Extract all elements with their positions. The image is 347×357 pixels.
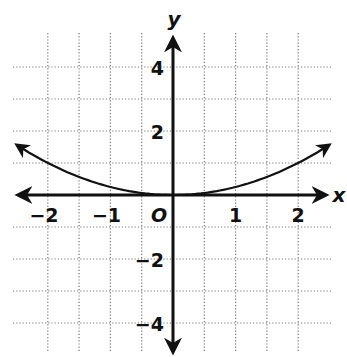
x-tick-label: −1 xyxy=(92,204,121,226)
tick-labels: −2−11242−2−4Oxy xyxy=(29,7,346,335)
x-axis-label: x xyxy=(332,183,347,207)
y-tick-label: 2 xyxy=(151,121,164,143)
y-tick-label: −2 xyxy=(135,249,164,271)
y-tick-label: −4 xyxy=(135,313,164,335)
origin-label: O xyxy=(151,204,167,226)
y-axis-label: y xyxy=(167,7,181,31)
coordinate-plane: −2−11242−2−4Oxy xyxy=(0,0,347,357)
y-tick-label: 4 xyxy=(151,57,164,79)
x-tick-label: 2 xyxy=(291,204,304,226)
x-tick-label: 1 xyxy=(229,204,242,226)
x-tick-label: −2 xyxy=(29,204,58,226)
